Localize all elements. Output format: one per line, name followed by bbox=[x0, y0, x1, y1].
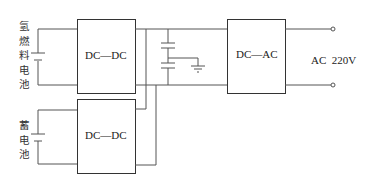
label-char: 料 bbox=[18, 48, 30, 63]
dc-ac-label: DC—AC bbox=[236, 49, 278, 60]
label-char: 池 bbox=[18, 147, 30, 162]
output-terminal-top bbox=[331, 27, 335, 31]
label-char: 池 bbox=[18, 77, 30, 92]
fuel-cell-circuit bbox=[31, 29, 77, 85]
label-char: 氢 bbox=[18, 19, 30, 34]
label-char: 电 bbox=[18, 133, 30, 148]
label-char: 电 bbox=[18, 63, 30, 78]
storage-battery-label: 蓄 电 池 bbox=[18, 118, 30, 162]
output-terminal-bottom bbox=[331, 83, 335, 87]
fuel-cell-label: 氢 燃 料 电 池 bbox=[18, 19, 30, 92]
ac-output-label: AC 220V bbox=[311, 55, 356, 66]
dc-dc-bottom-label: DC—DC bbox=[85, 130, 127, 141]
circuit-diagram bbox=[0, 0, 366, 183]
dc-dc-top-label: DC—DC bbox=[85, 50, 127, 61]
capacitor-stack bbox=[161, 29, 205, 85]
label-char: 燃 bbox=[18, 34, 30, 49]
storage-battery-circuit bbox=[31, 110, 77, 164]
label-char: 蓄 bbox=[18, 118, 30, 133]
